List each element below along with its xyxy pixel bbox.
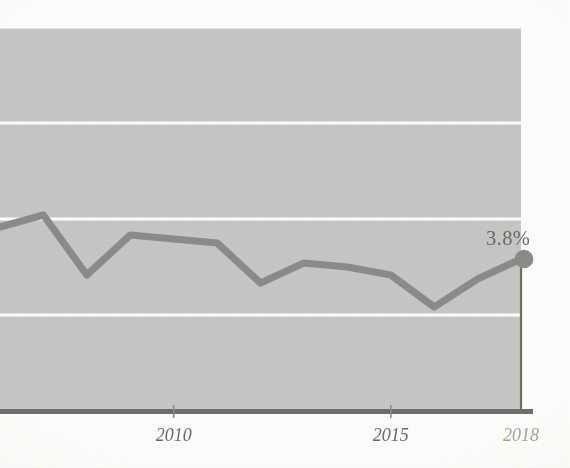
x-tick-label-2015: 2015 bbox=[373, 425, 409, 445]
chart-canvas: 3.8% 2010 2015 2018 bbox=[0, 0, 570, 468]
endpoint-value-label: 3.8% bbox=[486, 227, 530, 249]
line-chart: 3.8% 2010 2015 2018 bbox=[0, 0, 570, 468]
x-tick-label-2010: 2010 bbox=[156, 425, 192, 445]
x-tick-label-2018: 2018 bbox=[503, 425, 539, 445]
endpoint-marker[interactable] bbox=[515, 250, 534, 269]
